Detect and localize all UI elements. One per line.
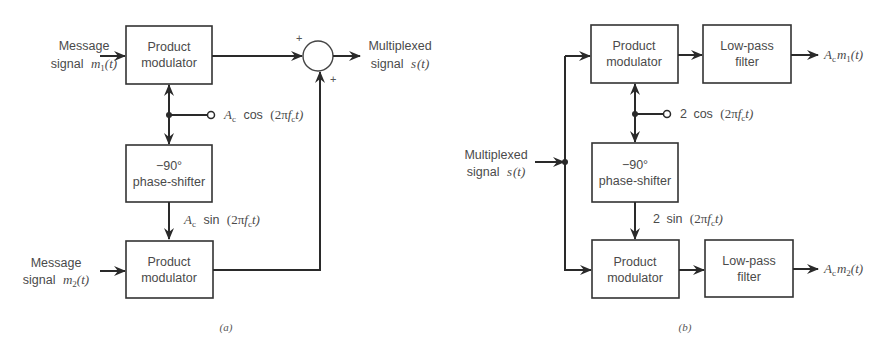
- diagram-b-demultiplexer: Multiplexed signal s(t) Product modulato…: [464, 25, 863, 334]
- svg-text:signal s(t): signal s(t): [467, 162, 525, 179]
- carrier-sin-label-b: 2 sin (2πfct): [653, 209, 723, 228]
- svg-text:−90°: −90°: [622, 158, 648, 172]
- svg-text:phase-shifter: phase-shifter: [133, 175, 205, 189]
- product-modulator-1: Product modulator: [126, 26, 212, 84]
- product-modulator-b1: Product modulator: [591, 25, 678, 83]
- svg-text:Product: Product: [613, 255, 657, 269]
- diagram-a-multiplexer: Message signal m1(t) Product modulator +…: [23, 26, 432, 334]
- output-1-label: Acm1(t): [823, 47, 863, 64]
- plus-sign-top: +: [296, 32, 302, 44]
- output-2-label: Acm2(t): [823, 261, 863, 278]
- message-signal-2-label: Message signal m2(t): [23, 256, 89, 289]
- svg-text:Product: Product: [147, 255, 191, 269]
- modulator-2-to-summer-arrow: [213, 72, 320, 270]
- svg-text:signal s(t): signal s(t): [371, 54, 429, 71]
- svg-text:Multiplexed: Multiplexed: [368, 39, 431, 53]
- carrier-input-terminal: [208, 112, 215, 119]
- carrier-input-terminal-b: [664, 111, 671, 118]
- phase-shifter-b: −90° phase-shifter: [592, 143, 678, 202]
- caption-a: (a): [220, 321, 233, 334]
- svg-text:Product: Product: [147, 40, 191, 54]
- qam-block-diagrams: Message signal m1(t) Product modulator +…: [0, 0, 890, 354]
- multiplexed-output-label: Multiplexed signal s(t): [368, 39, 431, 71]
- low-pass-filter-2: Low-pass filter: [705, 240, 793, 297]
- svg-text:signal m2(t): signal m2(t): [23, 270, 89, 289]
- svg-text:modulator: modulator: [606, 55, 662, 69]
- svg-text:Multiplexed: Multiplexed: [464, 148, 527, 162]
- product-modulator-2: Product modulator: [126, 241, 213, 298]
- multiplexed-input-label: Multiplexed signal s(t): [464, 148, 527, 179]
- svg-text:filter: filter: [735, 55, 759, 69]
- phase-shifter-a: −90° phase-shifter: [126, 145, 212, 202]
- svg-text:modulator: modulator: [141, 271, 197, 285]
- svg-text:−90°: −90°: [156, 159, 182, 173]
- input-junction-dot: [562, 159, 568, 165]
- summing-junction: + +: [296, 32, 336, 85]
- svg-text:phase-shifter: phase-shifter: [599, 174, 671, 188]
- svg-text:Low-pass: Low-pass: [722, 254, 776, 268]
- svg-text:Product: Product: [612, 39, 656, 53]
- svg-text:modulator: modulator: [607, 271, 663, 285]
- svg-text:Low-pass: Low-pass: [720, 39, 774, 53]
- low-pass-filter-1: Low-pass filter: [703, 25, 791, 83]
- product-modulator-b2: Product modulator: [592, 240, 679, 298]
- carrier-cos-label-b: 2 cos (2πfct): [680, 104, 753, 123]
- plus-sign-bottom: +: [330, 73, 336, 85]
- carrier-cos-label: Ac cos (2πfct): [223, 105, 303, 125]
- svg-text:modulator: modulator: [141, 56, 197, 70]
- caption-b: (b): [679, 321, 692, 334]
- svg-text:Message: Message: [59, 39, 110, 53]
- svg-text:Message: Message: [31, 256, 82, 270]
- carrier-sin-label: Ac sin (2πfct): [183, 210, 260, 230]
- svg-text:filter: filter: [737, 270, 761, 284]
